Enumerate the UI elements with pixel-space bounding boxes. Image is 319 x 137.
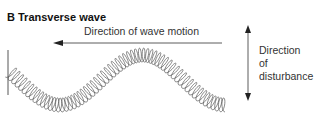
coil-spring-wave: [5, 48, 225, 112]
transverse-wave-diagram: [0, 0, 319, 137]
wave-motion-arrow: [53, 40, 222, 46]
disturbance-arrow: [245, 25, 251, 101]
